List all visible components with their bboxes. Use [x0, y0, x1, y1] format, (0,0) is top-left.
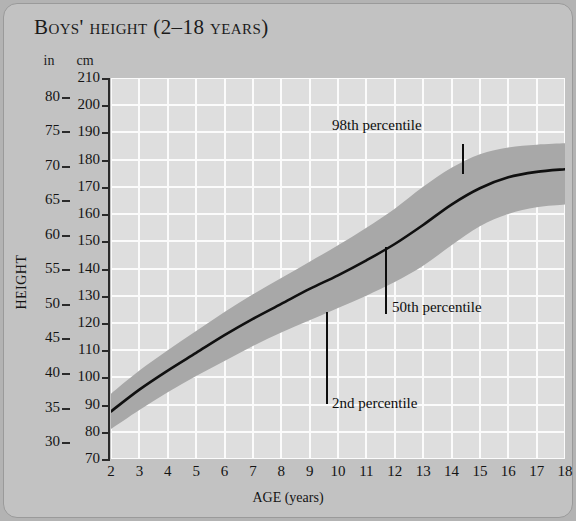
annotation-label: 2nd percentile	[332, 395, 417, 412]
inch-tick	[62, 373, 70, 375]
cm-tick	[102, 214, 110, 216]
inch-tick	[62, 131, 70, 133]
cm-tick-label: 110	[66, 341, 100, 358]
x-axis-title: AGE (years)	[4, 490, 572, 506]
centimeters-unit-header: cm	[70, 53, 100, 69]
cm-tick	[102, 323, 110, 325]
inch-tick-label: 30	[30, 433, 60, 450]
cm-tick	[102, 432, 110, 434]
inch-tick	[62, 166, 70, 168]
x-tick-label: 16	[495, 463, 521, 480]
x-tick-label: 6	[212, 463, 238, 480]
x-tick-label: 13	[410, 463, 436, 480]
annotation-leader-line	[326, 312, 328, 404]
inch-tick	[62, 97, 70, 99]
cm-tick-label: 190	[66, 123, 100, 140]
cm-tick	[102, 241, 110, 243]
x-tick-label: 14	[439, 463, 465, 480]
growth-chart-figure: Boys' height (2–18 years) in cm HEIGHT 7…	[0, 0, 576, 521]
cm-tick	[102, 296, 110, 298]
cm-tick-label: 70	[66, 450, 100, 467]
inch-tick	[62, 200, 70, 202]
inch-tick-label: 65	[30, 191, 60, 208]
inch-tick-label: 70	[30, 157, 60, 174]
inch-tick	[62, 338, 70, 340]
cm-tick-label: 150	[66, 232, 100, 249]
x-tick-label: 5	[183, 463, 209, 480]
x-tick-label: 2	[98, 463, 124, 480]
inch-tick-label: 50	[30, 295, 60, 312]
x-tick-label: 4	[155, 463, 181, 480]
y-axis-title: HEIGHT	[14, 237, 30, 327]
x-tick-label: 18	[552, 463, 576, 480]
cm-tick-label: 130	[66, 287, 100, 304]
cm-tick	[102, 405, 110, 407]
x-tick-label: 15	[467, 463, 493, 480]
x-tick-label: 7	[240, 463, 266, 480]
chart-title: Boys' height (2–18 years)	[34, 15, 454, 45]
x-tick-label: 11	[353, 463, 379, 480]
x-tick-label: 12	[382, 463, 408, 480]
annotation-label: 50th percentile	[392, 299, 482, 316]
cm-tick-label: 210	[66, 69, 100, 86]
x-tick-label: 10	[325, 463, 351, 480]
inch-tick	[62, 442, 70, 444]
x-tick-label: 3	[126, 463, 152, 480]
cm-tick-label: 170	[66, 178, 100, 195]
annotation-leader-line	[385, 247, 387, 314]
inch-tick-label: 55	[30, 260, 60, 277]
inch-tick	[62, 408, 70, 410]
cm-tick-label: 160	[66, 205, 100, 222]
inch-tick	[62, 304, 70, 306]
inch-tick-label: 75	[30, 122, 60, 139]
cm-tick-label: 90	[66, 396, 100, 413]
cm-tick-label: 200	[66, 96, 100, 113]
cm-tick	[102, 269, 110, 271]
chart-card: Boys' height (2–18 years) in cm HEIGHT 7…	[3, 3, 573, 518]
cm-tick-label: 180	[66, 151, 100, 168]
cm-tick	[102, 350, 110, 352]
inch-tick-label: 60	[30, 226, 60, 243]
cm-tick-label: 100	[66, 368, 100, 385]
percentile-band-2-to-98	[111, 143, 565, 429]
inch-tick-label: 40	[30, 364, 60, 381]
cm-tick	[102, 459, 110, 461]
cm-tick	[102, 78, 110, 80]
cm-tick	[102, 132, 110, 134]
cm-tick	[102, 160, 110, 162]
cm-tick	[102, 377, 110, 379]
inch-tick-label: 80	[30, 88, 60, 105]
cm-tick-label: 120	[66, 314, 100, 331]
inch-tick-label: 45	[30, 329, 60, 346]
cm-tick-label: 80	[66, 423, 100, 440]
cm-tick-label: 140	[66, 260, 100, 277]
cm-tick	[102, 105, 110, 107]
x-tick-label: 8	[268, 463, 294, 480]
cm-tick	[102, 187, 110, 189]
x-tick-label: 9	[297, 463, 323, 480]
inch-tick	[62, 269, 70, 271]
annotation-label: 98th percentile	[332, 117, 422, 134]
inch-tick	[62, 235, 70, 237]
inch-tick-label: 35	[30, 399, 60, 416]
x-tick-label: 17	[524, 463, 550, 480]
inches-unit-header: in	[37, 53, 61, 69]
annotation-leader-line	[462, 144, 464, 174]
